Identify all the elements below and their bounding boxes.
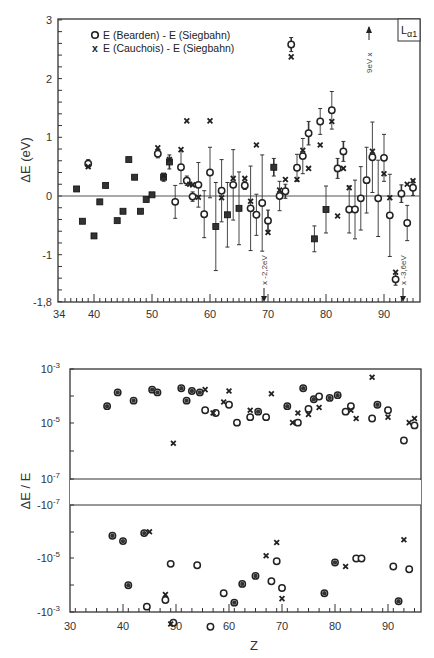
data-point bbox=[178, 164, 184, 170]
cross-data-point bbox=[306, 166, 311, 171]
x-tick-label: 60 bbox=[204, 308, 216, 320]
data-point bbox=[352, 206, 358, 212]
data-point bbox=[404, 220, 410, 226]
arrow-up-icon bbox=[366, 26, 372, 33]
data-point-fill bbox=[179, 386, 183, 390]
data-point bbox=[247, 414, 253, 420]
x-tick-label: 30 bbox=[64, 620, 76, 632]
data-point bbox=[323, 207, 329, 213]
data-point-fill bbox=[285, 404, 289, 408]
data-point-fill bbox=[190, 389, 194, 393]
data-point bbox=[189, 193, 195, 199]
cross-data-point bbox=[280, 596, 285, 601]
y-tick-label: 10-3 bbox=[41, 361, 61, 375]
data-point bbox=[247, 205, 253, 211]
data-point bbox=[207, 169, 213, 175]
svg-text:x -3,6eV: x -3,6eV bbox=[399, 255, 408, 285]
data-point bbox=[91, 233, 97, 239]
data-point bbox=[213, 224, 219, 230]
data-point bbox=[387, 212, 393, 218]
x-tick-label: 70 bbox=[276, 620, 288, 632]
cross-data-point bbox=[405, 182, 410, 187]
cross-data-point bbox=[335, 214, 340, 219]
x-tick-label: 40 bbox=[117, 620, 129, 632]
cross-data-point bbox=[343, 564, 348, 569]
cross-data-point bbox=[296, 411, 301, 416]
bottom-x-axis: 30405060708090 bbox=[64, 604, 415, 632]
data-point bbox=[385, 407, 391, 413]
legend: E (Bearden) - E (Siegbahn) x E (Cauchois… bbox=[92, 29, 235, 54]
figure: 3210-1-1,8 34405060708090 ΔE (eV) E (Bea… bbox=[0, 0, 434, 658]
data-point bbox=[194, 562, 200, 568]
data-point bbox=[234, 419, 240, 425]
cross-data-point bbox=[274, 540, 279, 545]
cross-data-point bbox=[407, 420, 412, 425]
cross-data-point bbox=[264, 553, 269, 558]
data-point bbox=[168, 561, 174, 567]
data-point bbox=[358, 195, 364, 201]
data-point bbox=[132, 174, 138, 180]
data-point bbox=[329, 107, 335, 113]
cross-data-point bbox=[370, 375, 375, 380]
y-tick-label: -1,8 bbox=[33, 296, 52, 308]
data-point bbox=[295, 419, 301, 425]
cross-data-point bbox=[412, 416, 417, 421]
data-point bbox=[410, 185, 416, 191]
data-point bbox=[144, 603, 150, 609]
data-point bbox=[195, 182, 201, 188]
data-point bbox=[381, 155, 387, 161]
data-point bbox=[375, 195, 381, 201]
data-point bbox=[242, 182, 248, 188]
x-tick-label: 90 bbox=[382, 620, 394, 632]
cross-data-point bbox=[242, 176, 247, 181]
data-point bbox=[316, 393, 322, 399]
y-tick-label: -1 bbox=[42, 249, 52, 261]
data-point bbox=[143, 197, 149, 203]
bottom-y-axis: 10-310-510-7-10-7-10-5-10-3 bbox=[37, 361, 74, 618]
data-point bbox=[265, 217, 271, 223]
cross-data-point bbox=[318, 143, 323, 148]
data-point bbox=[282, 188, 288, 194]
top-y-axis-label: ΔE (eV) bbox=[18, 137, 33, 183]
data-point bbox=[207, 624, 213, 630]
x-tick-label: 50 bbox=[146, 308, 158, 320]
data-point-fill bbox=[155, 390, 159, 394]
data-point-fill bbox=[184, 398, 188, 402]
data-point bbox=[340, 148, 346, 154]
data-point bbox=[218, 188, 224, 194]
y-tick-label: -10-5 bbox=[37, 550, 61, 564]
y-tick-label: -10-3 bbox=[37, 604, 61, 618]
data-point-fill bbox=[126, 583, 130, 587]
data-point bbox=[126, 157, 132, 163]
data-point-fill bbox=[105, 404, 109, 408]
y-tick-label: -10-7 bbox=[37, 497, 61, 511]
data-point bbox=[276, 193, 282, 199]
data-point bbox=[305, 406, 311, 412]
y-tick-label: 10-7 bbox=[41, 471, 61, 485]
data-point bbox=[120, 208, 126, 214]
data-point bbox=[358, 555, 364, 561]
data-point-fill bbox=[116, 390, 120, 394]
cross-data-point bbox=[254, 143, 259, 148]
data-point bbox=[137, 208, 143, 214]
data-point bbox=[224, 212, 230, 218]
data-point bbox=[401, 437, 407, 443]
cross-data-point bbox=[269, 391, 274, 396]
data-point bbox=[279, 585, 285, 591]
cross-data-point bbox=[341, 166, 346, 171]
cross-data-point bbox=[317, 405, 322, 410]
data-point bbox=[201, 211, 207, 217]
data-point bbox=[369, 154, 375, 160]
data-point bbox=[311, 236, 317, 242]
bottom-chart-panel: 10-310-510-7-10-7-10-5-10-3 304050607080… bbox=[18, 361, 421, 653]
data-point bbox=[300, 153, 306, 159]
data-point bbox=[162, 597, 168, 603]
data-point bbox=[271, 164, 277, 170]
data-point bbox=[253, 212, 259, 218]
data-point bbox=[74, 186, 80, 192]
data-point bbox=[103, 182, 109, 188]
legend-item-cauchois: E (Cauchois) - E (Siegbahn) bbox=[103, 42, 234, 54]
annotation-9ev: 9eV x bbox=[365, 26, 374, 73]
data-point bbox=[114, 218, 120, 224]
cross-data-point bbox=[171, 441, 176, 446]
